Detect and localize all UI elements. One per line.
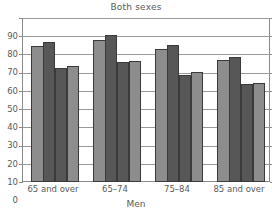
y-tick-label-60: 60 xyxy=(7,86,18,95)
y-tick-right-0 xyxy=(270,182,272,183)
bar xyxy=(191,72,203,182)
bar xyxy=(229,57,241,182)
y-tick-label-30: 30 xyxy=(7,141,18,150)
chart-title: Both sexes xyxy=(0,2,272,12)
y-tick-right-80 xyxy=(270,36,272,37)
bar xyxy=(217,60,229,182)
x-tick-label: 65 and over xyxy=(27,184,78,194)
x-axis-title: Men xyxy=(0,199,272,209)
y-tick-right-30 xyxy=(270,127,272,128)
y-tick-label-20: 20 xyxy=(7,159,18,168)
x-tick-label: 85 and over xyxy=(213,184,264,194)
bar xyxy=(167,45,179,182)
bar xyxy=(67,66,79,182)
bar xyxy=(117,62,129,182)
bar xyxy=(105,35,117,182)
x-tick-label: 65–74 xyxy=(102,184,128,194)
bar-group xyxy=(217,18,264,182)
bar xyxy=(129,61,141,182)
bar xyxy=(179,75,191,183)
x-axis-tick-labels: 65 and over65–7475–8485 and over xyxy=(22,184,270,198)
bar xyxy=(93,40,105,182)
x-tick-label: 75–84 xyxy=(164,184,190,194)
y-tick-right-70 xyxy=(270,54,272,55)
y-tick-right-90 xyxy=(270,18,272,19)
bar-group xyxy=(93,18,140,182)
bar-group xyxy=(155,18,202,182)
y-tick-label-70: 70 xyxy=(7,68,18,77)
y-tick-label-10: 10 xyxy=(7,178,18,187)
bars-layer xyxy=(23,18,270,182)
bar xyxy=(253,83,265,182)
bar xyxy=(241,84,253,182)
y-tick-right-20 xyxy=(270,146,272,147)
bar xyxy=(43,42,55,182)
bar xyxy=(31,46,43,182)
bar xyxy=(55,68,67,182)
y-tick-right-60 xyxy=(270,73,272,74)
plot-area xyxy=(22,18,270,182)
y-tick-label-80: 80 xyxy=(7,50,18,59)
y-tick-0 xyxy=(19,182,23,183)
y-tick-right-50 xyxy=(270,91,272,92)
y-axis-tick-labels: 0102030405060708090 xyxy=(0,18,20,182)
y-tick-right-10 xyxy=(270,164,272,165)
y-tick-right-40 xyxy=(270,109,272,110)
bar-group xyxy=(31,18,78,182)
bar xyxy=(155,49,167,182)
bar-chart: Both sexes 0102030405060708090 65 and ov… xyxy=(0,0,272,215)
y-tick-label-40: 40 xyxy=(7,123,18,132)
y-tick-label-90: 90 xyxy=(7,32,18,41)
y-tick-label-50: 50 xyxy=(7,105,18,114)
